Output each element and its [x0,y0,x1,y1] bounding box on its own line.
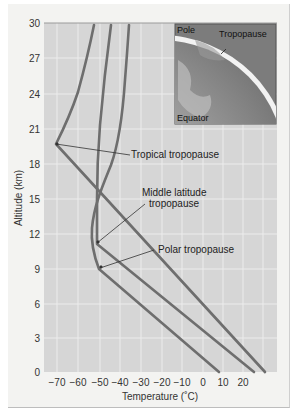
svg-text:24: 24 [29,89,41,100]
svg-text:0: 0 [34,367,40,378]
svg-text:−50: −50 [92,377,109,388]
y-axis-label: Altitude (km) [13,170,24,226]
svg-text:−30: −30 [133,377,150,388]
svg-text:21: 21 [29,124,41,135]
svg-text:−70: −70 [49,377,66,388]
svg-text:−20: −20 [154,377,171,388]
svg-text:20: 20 [237,377,249,388]
polar-tropopause-label: Polar tropopause [158,244,235,255]
y-axis-ticks: 30 27 24 21 18 15 12 9 6 3 0 [29,18,41,378]
middle-latitude-label-line1: Middle latitude [142,187,207,198]
svg-text:12: 12 [29,229,41,240]
x-axis-ticks: −70 −60 −50 −40 −30 −20 −10 0 10 20 [49,377,249,388]
svg-text:−10: −10 [174,377,191,388]
inset-equator-label: Equator [177,113,209,123]
svg-text:27: 27 [29,53,41,64]
svg-text:10: 10 [217,377,229,388]
svg-text:3: 3 [34,333,40,344]
svg-text:0: 0 [200,377,206,388]
svg-text:−60: −60 [70,377,87,388]
svg-text:6: 6 [34,299,40,310]
svg-text:18: 18 [29,159,41,170]
svg-text:9: 9 [34,264,40,275]
svg-text:30: 30 [29,18,41,29]
svg-text:15: 15 [29,194,41,205]
svg-text:−40: −40 [112,377,129,388]
inset-tropopause-label: Tropopause [219,29,267,39]
middle-latitude-label-line2: tropopause [149,198,199,209]
altitude-temperature-chart: Pole Tropopause Equator Tropical tropopa… [0,0,295,415]
inset-pole-label: Pole [177,25,195,35]
tropical-tropopause-label: Tropical tropopause [131,149,219,160]
x-axis-label: Temperature (˚C) [122,391,198,402]
